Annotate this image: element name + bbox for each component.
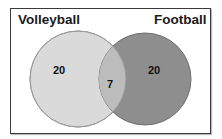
intersection-count: 7 (107, 78, 113, 90)
football-only-count: 20 (148, 64, 160, 76)
volleyball-only-count: 20 (53, 64, 65, 76)
volleyball-label: Volleyball (18, 12, 80, 27)
football-label: Football (154, 12, 207, 27)
